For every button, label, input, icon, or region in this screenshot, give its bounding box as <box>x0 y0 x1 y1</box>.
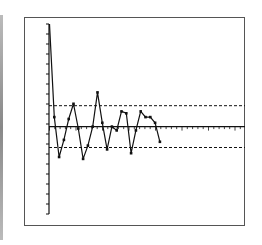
data-point <box>82 158 85 161</box>
data-point <box>144 116 147 119</box>
data-point <box>154 122 157 125</box>
data-point <box>58 156 61 159</box>
data-point <box>115 129 118 132</box>
data-point <box>139 110 142 113</box>
data-point <box>101 122 104 125</box>
data-point <box>96 91 99 94</box>
data-point <box>159 141 162 144</box>
data-point <box>125 112 128 115</box>
data-point <box>91 125 94 128</box>
data-point <box>77 127 80 130</box>
y-axis <box>46 24 49 214</box>
data-point <box>120 110 123 113</box>
data-series <box>50 24 162 160</box>
data-point <box>130 152 133 155</box>
data-point <box>63 139 66 142</box>
data-point <box>53 116 56 119</box>
control-chart <box>0 0 262 245</box>
data-point <box>149 116 152 119</box>
data-point <box>87 144 90 147</box>
data-point <box>67 118 70 121</box>
data-point <box>135 129 138 132</box>
data-point <box>72 103 75 106</box>
data-point <box>106 148 109 151</box>
series-line <box>50 24 160 159</box>
data-point <box>111 125 114 128</box>
